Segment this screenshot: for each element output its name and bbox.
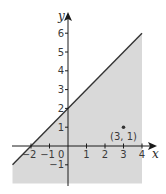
y-tick-label: −1 (49, 159, 64, 170)
y-tick-label: 5 (58, 47, 64, 58)
shaded-region (13, 33, 143, 183)
y-tick-label: 3 (58, 84, 64, 95)
y-axis-label: y (57, 9, 65, 23)
y-tick-label: 6 (58, 28, 64, 39)
y-tick-label: 2 (58, 103, 64, 114)
point-marker (122, 125, 126, 129)
x-tick-label: 4 (139, 149, 145, 160)
x-tick-label: −2 (22, 149, 37, 160)
y-tick-label: 1 (58, 122, 64, 133)
inequality-graph: x y −2−11234 −1123456 0 (3, 1) (0, 0, 166, 194)
y-tick-label: 4 (58, 65, 64, 76)
x-axis-label: x (152, 147, 159, 161)
x-tick-label: 3 (120, 149, 126, 160)
point-label: (3, 1) (110, 131, 137, 142)
x-tick-label: 1 (83, 149, 89, 160)
x-tick-label: 2 (102, 149, 108, 160)
origin-label: 0 (58, 149, 64, 160)
